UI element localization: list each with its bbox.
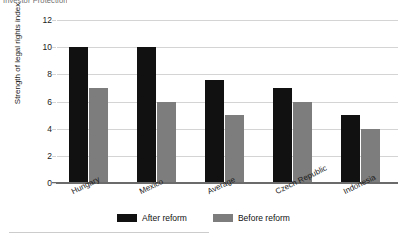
legend-swatch-after-icon bbox=[117, 214, 137, 222]
y-axis-tickmark bbox=[52, 183, 56, 184]
bar-after-indonesia bbox=[341, 115, 360, 183]
legend-item-before: Before reform bbox=[213, 213, 290, 223]
plot-area bbox=[57, 20, 398, 183]
y-axis-tick-label: 12 bbox=[22, 15, 52, 25]
legend-label-after: After reform bbox=[142, 213, 187, 223]
y-axis-tick-labels: 024681012 bbox=[18, 20, 52, 183]
bar-chart-figure: Investor Protection Strength of legal ri… bbox=[0, 0, 407, 239]
legend-item-after: After reform bbox=[117, 213, 187, 223]
bars-layer bbox=[57, 20, 398, 183]
bar-after-average bbox=[205, 80, 224, 183]
bar-after-mexico bbox=[137, 47, 156, 183]
y-axis-tick-label: 0 bbox=[22, 178, 52, 188]
y-axis-tick-label: 8 bbox=[22, 69, 52, 79]
y-axis-tick-label: 4 bbox=[22, 124, 52, 134]
y-axis-tickmark bbox=[52, 102, 56, 103]
y-axis-tick-label: 6 bbox=[22, 97, 52, 107]
y-axis-tickmark bbox=[52, 156, 56, 157]
bar-before-hungary bbox=[89, 88, 108, 183]
y-axis-tickmark bbox=[52, 47, 56, 48]
bar-before-mexico bbox=[157, 102, 176, 184]
bar-after-hungary bbox=[69, 47, 88, 183]
y-axis-tickmark bbox=[52, 74, 56, 75]
y-axis-tick-label: 10 bbox=[22, 42, 52, 52]
y-axis-tickmark bbox=[52, 129, 56, 130]
y-axis-tickmark bbox=[52, 20, 56, 21]
y-axis-tick-label: 2 bbox=[22, 151, 52, 161]
legend-label-before: Before reform bbox=[238, 213, 290, 223]
bar-after-czech-republic bbox=[273, 88, 292, 183]
chart-legend: After reform Before reform bbox=[0, 213, 407, 223]
bar-before-average bbox=[225, 115, 244, 183]
footer-rule bbox=[9, 232, 209, 233]
legend-swatch-before-icon bbox=[213, 214, 233, 222]
